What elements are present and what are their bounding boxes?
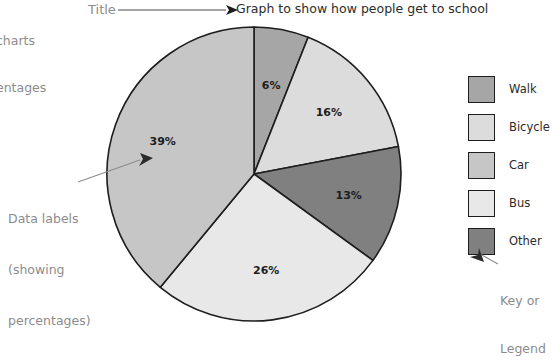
legend-item-label: Bicycle: [509, 120, 550, 134]
pie-data-label: 16%: [316, 106, 342, 119]
pie-data-label: 26%: [253, 264, 279, 277]
legend-swatch-icon: [468, 76, 495, 103]
legend-callout-line-2: Legend: [500, 341, 546, 357]
legend-item-label: Other: [509, 234, 542, 248]
legend-item-label: Car: [509, 158, 529, 172]
legend-swatch-icon: [468, 114, 495, 141]
legend-item-label: Walk: [509, 82, 537, 96]
pie-data-label: 39%: [150, 135, 176, 148]
legend-item[interactable]: Walk: [468, 76, 553, 114]
legend-item[interactable]: Bicycle: [468, 114, 553, 152]
legend-item-label: Bus: [509, 196, 530, 210]
legend-swatch-icon: [468, 152, 495, 179]
legend-swatch-icon: [468, 190, 495, 217]
pie-data-label: 6%: [262, 79, 281, 92]
legend-swatch-icon: [468, 228, 495, 255]
pie-data-label: 13%: [336, 189, 362, 202]
legend-item[interactable]: Bus: [468, 190, 553, 228]
legend: WalkBicycleCarBusOther: [468, 76, 553, 266]
legend-item[interactable]: Other: [468, 228, 553, 266]
legend-item[interactable]: Car: [468, 152, 553, 190]
